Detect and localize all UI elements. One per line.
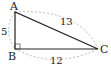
arc-ab xyxy=(9,12,16,49)
vertex-label-c: C xyxy=(100,43,108,56)
vertex-label-a: A xyxy=(9,0,19,13)
side-label-bc: 12 xyxy=(50,55,63,66)
triangle-diagram: A B C 5 12 13 xyxy=(0,0,111,68)
side-label-ac: 13 xyxy=(60,16,73,27)
right-angle-marker xyxy=(15,44,20,49)
vertex-label-b: B xyxy=(8,50,16,63)
triangle xyxy=(15,12,98,49)
side-label-ab: 5 xyxy=(1,26,7,37)
